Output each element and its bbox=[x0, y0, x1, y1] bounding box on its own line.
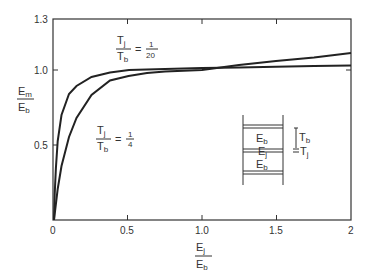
x-tick-1.5: 1.5 bbox=[269, 225, 283, 236]
y-axis-label: Em Eb bbox=[17, 85, 34, 115]
svg-text:Tj: Tj bbox=[117, 34, 126, 48]
svg-text:Ej: Ej bbox=[258, 145, 267, 159]
y-tick-0.5: 0.5 bbox=[34, 140, 48, 151]
svg-text:Eb: Eb bbox=[256, 132, 268, 146]
y-tick-1.0: 1.0 bbox=[34, 65, 48, 76]
svg-text:1: 1 bbox=[149, 40, 154, 49]
svg-text:1: 1 bbox=[128, 130, 133, 139]
plot-frame bbox=[53, 19, 351, 220]
y-tick-1.3: 1.3 bbox=[34, 14, 48, 25]
svg-text:Tb: Tb bbox=[117, 50, 129, 64]
svg-text:Eb: Eb bbox=[196, 258, 208, 272]
svg-text:=: = bbox=[115, 133, 121, 145]
x-tick-2: 2 bbox=[348, 225, 354, 236]
svg-text:Tb: Tb bbox=[299, 131, 311, 145]
tick-labels: 0 0.5 1.0 1.5 2 0.5 1.0 1.3 bbox=[34, 14, 354, 236]
inset-layer-diagram bbox=[243, 115, 299, 185]
svg-text:Em: Em bbox=[18, 85, 32, 99]
svg-text:Tj: Tj bbox=[97, 124, 106, 138]
x-tick-0: 0 bbox=[50, 225, 56, 236]
x-axis-label: Ej Eb bbox=[195, 241, 212, 272]
svg-text:Ej: Ej bbox=[196, 241, 205, 255]
svg-text:Eb: Eb bbox=[256, 158, 268, 172]
svg-text:Tj: Tj bbox=[300, 145, 309, 159]
annotation-1-4: Tj Tb = 1 4 bbox=[96, 124, 134, 154]
svg-text:20: 20 bbox=[146, 51, 155, 60]
annotation-1-20: Tj Tb = 1 20 bbox=[116, 34, 158, 64]
axis-ticks bbox=[53, 19, 351, 220]
svg-text:4: 4 bbox=[128, 140, 133, 149]
x-tick-0.5: 0.5 bbox=[120, 225, 134, 236]
svg-text:Tb: Tb bbox=[97, 140, 109, 154]
svg-text:=: = bbox=[135, 43, 141, 55]
x-tick-1.0: 1.0 bbox=[195, 225, 209, 236]
chart: 0 0.5 1.0 1.5 2 0.5 1.0 1.3 Em Eb Ej Eb … bbox=[0, 0, 371, 274]
svg-text:Eb: Eb bbox=[18, 101, 30, 115]
